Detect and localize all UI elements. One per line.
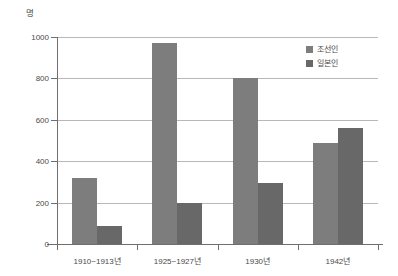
bar-chart: 명 02004006008001000 1910~1913년1925~1927년… xyxy=(0,0,398,276)
y-tick-label: 0 xyxy=(13,240,49,249)
x-tick-label: 1930년 xyxy=(245,255,270,266)
bar-0-3 xyxy=(313,143,338,244)
x-tick-mark xyxy=(218,244,219,250)
y-tick-label: 200 xyxy=(13,198,49,207)
x-tick-mark xyxy=(137,244,138,250)
x-tick-label: 1925~1927년 xyxy=(154,255,201,266)
bar-0-1 xyxy=(152,43,177,244)
legend-label: 일본인 xyxy=(317,59,338,68)
y-tick-label: 1000 xyxy=(13,33,49,42)
x-tick-mark xyxy=(298,244,299,250)
bar-1-0 xyxy=(97,226,122,244)
y-tick-mark xyxy=(51,203,57,204)
x-tick-label: 1942년 xyxy=(325,255,350,266)
legend-item-1: 일본인 xyxy=(306,58,338,69)
y-tick-mark xyxy=(51,161,57,162)
y-tick-label: 600 xyxy=(13,115,49,124)
y-tick-label: 400 xyxy=(13,157,49,166)
bar-1-2 xyxy=(258,183,283,244)
gridline xyxy=(57,78,378,79)
y-tick-mark xyxy=(51,78,57,79)
legend-swatch-icon xyxy=(306,60,313,67)
legend-label: 조선인 xyxy=(317,45,338,54)
y-axis-unit-label: 명 xyxy=(26,6,34,18)
bar-0-2 xyxy=(233,78,258,244)
bar-1-3 xyxy=(338,128,363,244)
x-tick-label: 1910~1913년 xyxy=(73,255,120,266)
x-axis-line xyxy=(47,244,383,245)
y-tick-mark xyxy=(51,120,57,121)
x-tick-mark xyxy=(378,244,379,250)
legend: 조선인 일본인 xyxy=(306,44,338,72)
y-tick-mark xyxy=(51,37,57,38)
legend-item-0: 조선인 xyxy=(306,44,338,55)
bar-0-0 xyxy=(72,178,97,244)
gridline xyxy=(57,120,378,121)
y-axis-line xyxy=(57,37,58,245)
legend-swatch-icon xyxy=(306,46,313,53)
y-tick-label: 800 xyxy=(13,74,49,83)
gridline xyxy=(57,37,378,38)
bar-1-1 xyxy=(177,203,202,244)
x-tick-mark xyxy=(57,244,58,250)
